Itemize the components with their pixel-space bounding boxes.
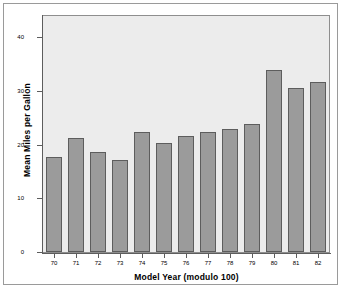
bar-78	[222, 16, 237, 252]
bar-rect	[266, 70, 281, 252]
bar-70	[46, 16, 61, 252]
bar-rect	[244, 124, 259, 252]
y-axis-title: Mean Miles per Gallon	[22, 60, 32, 200]
x-tick-label-80: 80	[262, 259, 286, 267]
x-tick-label-81: 81	[284, 259, 308, 267]
x-tick-label-74: 74	[130, 259, 154, 267]
x-tick-74	[142, 254, 143, 258]
x-tick-73	[120, 254, 121, 258]
bar-75	[156, 16, 171, 252]
x-tick-70	[54, 254, 55, 258]
y-tick-label-20: 20	[0, 142, 24, 149]
x-tick-label-73: 73	[108, 259, 132, 267]
bar-72	[90, 16, 105, 252]
y-tick-label-30: 30	[0, 88, 24, 95]
bar-rect	[134, 132, 149, 252]
bar-rect	[156, 143, 171, 252]
y-axis-line	[42, 15, 43, 254]
x-tick-label-71: 71	[64, 259, 88, 267]
bar-80	[266, 16, 281, 252]
bar-81	[288, 16, 303, 252]
x-tick-79	[252, 254, 253, 258]
y-tick-label-10: 10	[0, 195, 24, 202]
y-tick-label-0: 0	[0, 249, 24, 256]
bar-rect	[310, 82, 325, 252]
bar-rect	[200, 132, 215, 252]
bar-76	[178, 16, 193, 252]
x-tick-75	[164, 254, 165, 258]
x-tick-71	[76, 254, 77, 258]
x-axis-title: Model Year (modulo 100)	[42, 272, 331, 282]
y-tick-10	[37, 198, 42, 199]
x-tick-label-72: 72	[86, 259, 110, 267]
bar-rect	[222, 129, 237, 252]
bar-rect	[90, 152, 105, 252]
x-tick-77	[208, 254, 209, 258]
x-tick-78	[230, 254, 231, 258]
x-tick-81	[296, 254, 297, 258]
bar-82	[310, 16, 325, 252]
x-tick-label-70: 70	[42, 259, 66, 267]
bar-rect	[178, 136, 193, 252]
y-tick-40	[37, 37, 42, 38]
x-tick-label-79: 79	[240, 259, 264, 267]
x-tick-76	[186, 254, 187, 258]
plot-area	[42, 15, 330, 253]
x-tick-80	[274, 254, 275, 258]
chart-figure: 010203040 70717273747576777879808182 Mod…	[3, 3, 338, 285]
y-tick-30	[37, 91, 42, 92]
x-tick-label-75: 75	[152, 259, 176, 267]
bar-79	[244, 16, 259, 252]
bar-rect	[288, 88, 303, 252]
y-tick-label-40: 40	[0, 34, 24, 41]
x-tick-82	[318, 254, 319, 258]
bar-71	[68, 16, 83, 252]
bar-74	[134, 16, 149, 252]
bars-layer	[43, 16, 329, 252]
bar-rect	[112, 160, 127, 252]
y-tick-20	[37, 145, 42, 146]
x-tick-72	[98, 254, 99, 258]
x-tick-label-78: 78	[218, 259, 242, 267]
bar-77	[200, 16, 215, 252]
x-tick-label-77: 77	[196, 259, 220, 267]
bar-73	[112, 16, 127, 252]
x-tick-label-76: 76	[174, 259, 198, 267]
bar-rect	[46, 157, 61, 252]
bar-rect	[68, 138, 83, 252]
x-tick-label-82: 82	[306, 259, 330, 267]
